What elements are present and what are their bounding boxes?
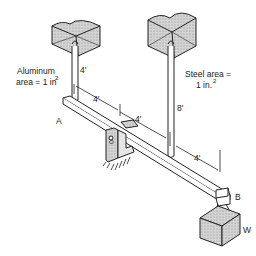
- aluminum-label-line1: Aluminum: [17, 66, 55, 76]
- point-a-label: A: [56, 116, 62, 126]
- steel-label-line1: Steel area =: [185, 69, 231, 79]
- beam-rod-diagram: Aluminum area = 1 in 2 Steel area = 1 in…: [0, 0, 256, 256]
- rigid-beam-ab: [63, 96, 230, 203]
- pivot-o-label: O: [109, 139, 114, 145]
- aluminum-rod: [72, 46, 78, 102]
- aluminum-label-line2: area = 1 in: [16, 77, 57, 87]
- dim-a-to-o-label: 4': [93, 94, 100, 104]
- weight-w: [200, 206, 240, 246]
- aluminum-label-sup: 2: [55, 75, 59, 81]
- weight-w-label: W: [243, 225, 251, 235]
- dim-steel-to-b-label: 4': [194, 153, 201, 163]
- steel-length-label: 8': [177, 103, 184, 113]
- steel-label-line2: 1 in.: [196, 80, 212, 90]
- dim-o-to-steel-label: 4': [135, 114, 142, 124]
- aluminum-length-label: 4': [80, 65, 87, 75]
- point-b-label: B: [235, 192, 241, 202]
- steel-rod: [168, 46, 174, 158]
